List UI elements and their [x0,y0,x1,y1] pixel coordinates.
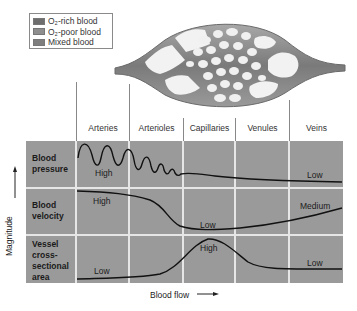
y-axis-arrow-icon [13,166,17,172]
area-low-left-label: Low [94,266,110,276]
x-axis-label: Blood flow [150,290,189,300]
blood-pressure-curve [78,144,342,182]
velocity-low-label: Low [200,220,216,230]
velocity-medium-label: Medium [300,201,330,211]
pressure-high-label: High [95,168,112,178]
pressure-low-label: Low [307,170,323,180]
area-high-label: High [200,243,217,253]
y-axis-label: Magnitude [4,216,14,256]
x-axis-arrow-icon [213,292,219,296]
velocity-high-label: High [93,196,110,206]
area-low-right-label: Low [307,258,323,268]
magnitude-curves [0,0,357,311]
